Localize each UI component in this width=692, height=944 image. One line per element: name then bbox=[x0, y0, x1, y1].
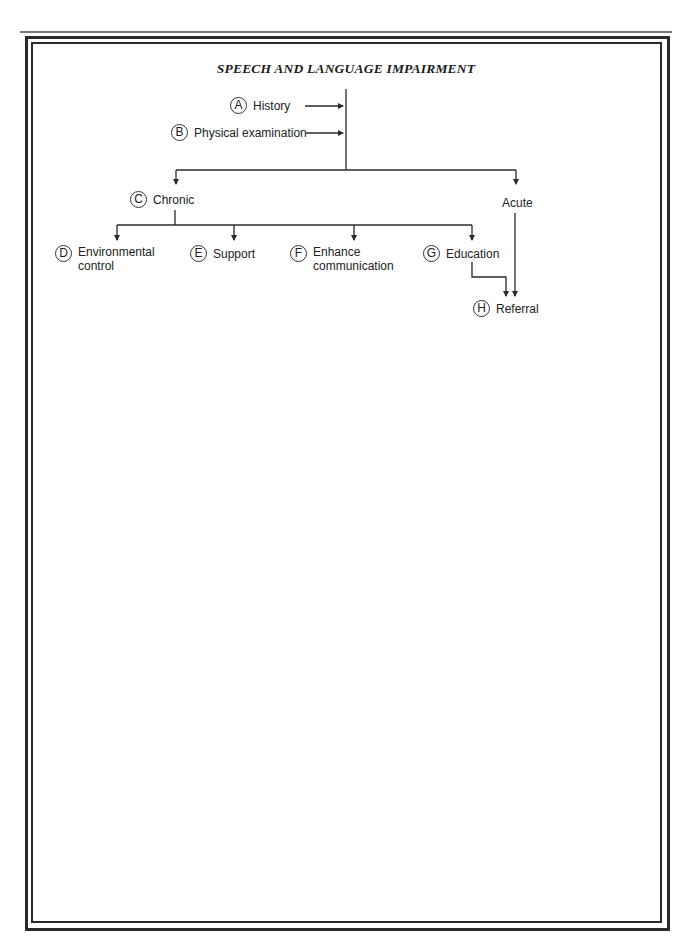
referral-label: Referral bbox=[496, 302, 539, 316]
circle-letter-c-icon: C bbox=[130, 191, 147, 208]
circle-letter-h-icon: H bbox=[473, 300, 490, 317]
history-label: History bbox=[253, 99, 290, 113]
node-enhance-communication: FEnhancecommunication bbox=[290, 245, 394, 273]
node-environmental-control: DEnvironmentalcontrol bbox=[55, 245, 155, 273]
circle-letter-f-icon: F bbox=[290, 245, 307, 262]
circle-letter-d-icon: D bbox=[55, 245, 72, 262]
circle-letter-b-icon: B bbox=[171, 124, 188, 141]
environmental-control-label-line1: Environmental bbox=[78, 245, 155, 259]
node-referral: HReferral bbox=[473, 300, 539, 317]
circle-letter-e-icon: E bbox=[190, 245, 207, 262]
node-support: ESupport bbox=[190, 245, 255, 262]
support-label: Support bbox=[213, 247, 255, 261]
enhance-communication-label-line2: communication bbox=[313, 259, 394, 273]
circle-letter-g-icon: G bbox=[423, 245, 440, 262]
chronic-label: Chronic bbox=[153, 193, 194, 207]
environmental-control-label-line2: control bbox=[78, 259, 155, 273]
node-education: GEducation bbox=[423, 245, 499, 262]
enhance-communication-label-line1: Enhance bbox=[313, 245, 394, 259]
node-acute: Acute bbox=[502, 195, 533, 210]
node-physical-examination: BPhysical examination bbox=[171, 124, 307, 141]
node-history: AHistory bbox=[230, 97, 290, 114]
education-label: Education bbox=[446, 247, 499, 261]
acute-label: Acute bbox=[502, 196, 533, 210]
connector-lines bbox=[0, 0, 692, 944]
node-chronic: CChronic bbox=[130, 191, 194, 208]
physical-examination-label: Physical examination bbox=[194, 126, 307, 140]
circle-letter-a-icon: A bbox=[230, 97, 247, 114]
